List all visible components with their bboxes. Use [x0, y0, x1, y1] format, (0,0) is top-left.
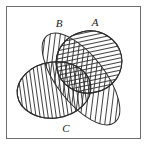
- venn-diagram-canvas: B A C: [0, 0, 148, 145]
- venn-diagram-figure: B A C: [0, 0, 148, 145]
- set-label-C: C: [62, 122, 70, 134]
- set-label-B: B: [56, 17, 63, 29]
- set-label-A: A: [91, 16, 99, 28]
